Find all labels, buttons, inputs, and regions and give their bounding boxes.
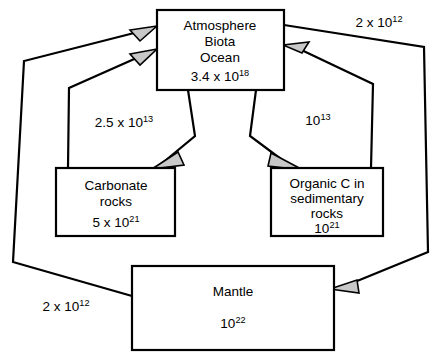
carbonate-line-2: rocks bbox=[100, 194, 133, 209]
organic-line-2: sedimentary bbox=[290, 191, 364, 206]
organic-line-3: rocks bbox=[311, 206, 344, 221]
carbon-cycle-diagram: Atmosphere Biota Ocean 3.4 x 1018 Carbon… bbox=[0, 0, 436, 360]
atmosphere-line-2: Biota bbox=[205, 34, 236, 49]
flux-path-atmosphere-to-mantle bbox=[284, 25, 428, 288]
arrowhead-mantle-to-atmosphere bbox=[130, 26, 157, 41]
flux-path-mantle-to-atmosphere bbox=[13, 31, 142, 296]
atmosphere-line-3: Ocean bbox=[200, 50, 240, 65]
atmosphere-line-1: Atmosphere bbox=[184, 18, 257, 33]
flux-label-mantle-to-atmosphere: 2 x 1012 bbox=[42, 298, 89, 314]
carbon-cycle-canvas: Atmosphere Biota Ocean 3.4 x 1018 Carbon… bbox=[0, 0, 436, 360]
flux-label-atmosphere-to-mantle: 2 x 1012 bbox=[355, 14, 402, 30]
mantle-box bbox=[132, 266, 334, 350]
flux-path-carbonate-to-atmosphere bbox=[68, 56, 141, 168]
flux-label-atmosphere-to-organic: 1013 bbox=[305, 112, 330, 128]
carbonate-line-1: Carbonate bbox=[84, 178, 147, 193]
flux-label-atmosphere-to-carbonate: 2.5 x 1013 bbox=[95, 114, 153, 130]
arrowhead-atmosphere-to-carbonate bbox=[152, 152, 184, 169]
organic-line-1: Organic C in bbox=[289, 176, 364, 191]
flux-path-organic-to-atmosphere bbox=[293, 46, 373, 168]
arrowhead-carbonate-to-atmosphere bbox=[130, 49, 157, 65]
mantle-line-1: Mantle bbox=[213, 284, 254, 299]
